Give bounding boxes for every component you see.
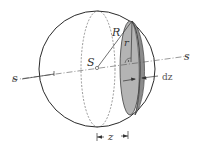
label-z: z bbox=[107, 131, 114, 142]
label-S-center: S bbox=[87, 56, 95, 69]
right-angle-dot bbox=[128, 60, 129, 61]
axis-left-solid bbox=[22, 74, 54, 79]
sphere-slice-diagram: s s S R r dz z bbox=[0, 0, 200, 148]
z-arrowhead-right bbox=[123, 134, 128, 137]
label-dz: dz bbox=[162, 72, 173, 82]
label-s-left: s bbox=[12, 72, 18, 85]
label-R: R bbox=[111, 26, 120, 39]
slice-disk bbox=[120, 21, 140, 115]
center-marker bbox=[95, 66, 98, 69]
z-arrowhead-left bbox=[97, 135, 102, 138]
label-s-right: s bbox=[184, 50, 190, 63]
